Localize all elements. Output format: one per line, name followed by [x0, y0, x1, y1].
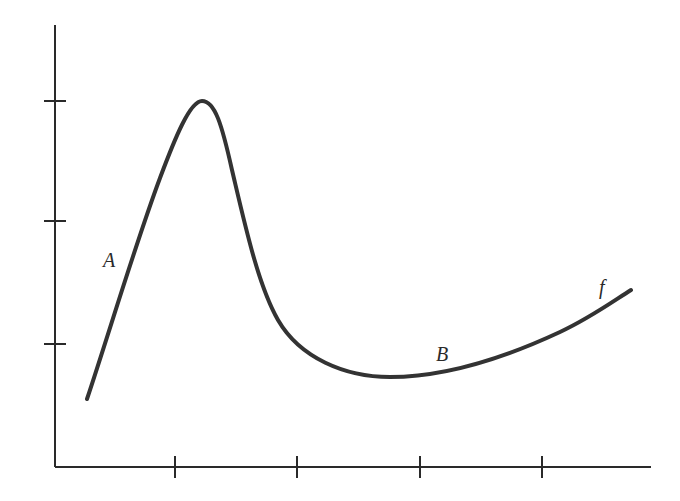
function-label-f: f [599, 277, 605, 297]
point-label-a: A [103, 250, 115, 270]
point-label-b: B [436, 344, 448, 364]
function-curve-f [87, 101, 631, 399]
function-graph [0, 0, 680, 501]
